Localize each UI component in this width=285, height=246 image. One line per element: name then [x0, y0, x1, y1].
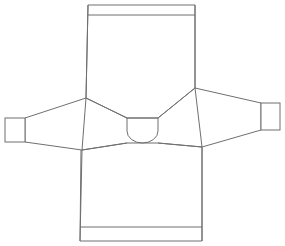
left-cuff: [5, 118, 25, 142]
lower-body-panel: [80, 143, 202, 241]
figure-canvas: [0, 0, 285, 246]
garment-flat-diagram: [0, 0, 285, 246]
right-cuff: [261, 103, 280, 130]
